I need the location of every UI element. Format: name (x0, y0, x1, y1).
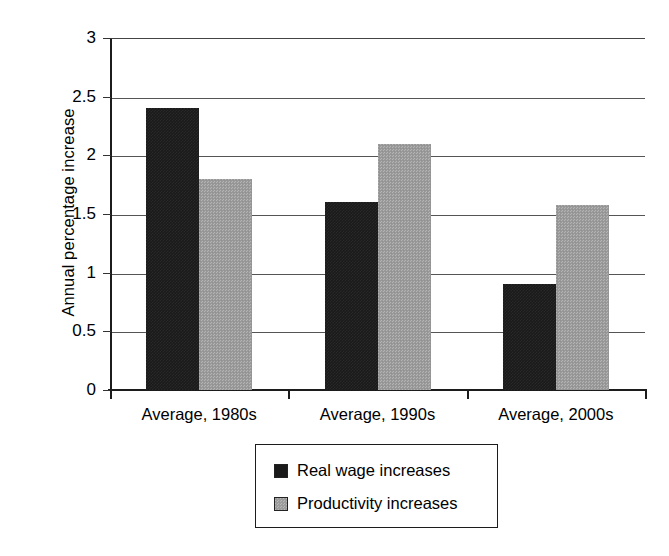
y-tick-label: 2.5 (6, 87, 96, 107)
x-tick-mark (110, 389, 112, 399)
x-category-label: Average, 2000s (467, 405, 645, 424)
bar-average-1980s-series-0 (146, 108, 199, 390)
legend-entry: Productivity increases (274, 487, 497, 520)
chart-legend: Real wage increasesProductivity increase… (255, 444, 498, 528)
x-category-label: Average, 1980s (110, 405, 288, 424)
y-tick-label: 2 (6, 145, 96, 165)
y-tick-mark (103, 273, 111, 274)
y-tick-mark (103, 214, 111, 215)
bar-average-1980s-series-1 (199, 179, 252, 390)
x-tick-mark (645, 389, 647, 399)
legend-entry: Real wage increases (274, 454, 497, 487)
y-tick-mark (103, 155, 111, 156)
y-tick-label: 0.5 (6, 321, 96, 341)
y-tick-mark (103, 331, 111, 332)
legend-swatch-icon (274, 497, 288, 511)
gridline (112, 98, 645, 99)
y-tick-mark (103, 97, 111, 98)
x-tick-mark (288, 389, 290, 399)
legend-label: Productivity increases (297, 494, 457, 513)
bar-average-2000s-series-1 (556, 205, 609, 390)
y-tick-mark (103, 38, 111, 39)
y-tick-label: 1 (6, 263, 96, 283)
y-tick-label: 1.5 (6, 204, 96, 224)
x-category-label: Average, 1990s (288, 405, 466, 424)
legend-label: Real wage increases (297, 461, 450, 480)
y-tick-label: 3 (6, 28, 96, 48)
bar-average-1990s-series-1 (378, 144, 431, 390)
bar-average-1990s-series-0 (325, 202, 378, 390)
legend-swatch-icon (274, 464, 288, 478)
x-tick-mark (467, 389, 469, 399)
y-tick-label: 0 (6, 380, 96, 400)
bar-average-2000s-series-0 (503, 284, 556, 390)
bar-chart: Annual percentage increase 32.521.510.50… (0, 0, 669, 556)
